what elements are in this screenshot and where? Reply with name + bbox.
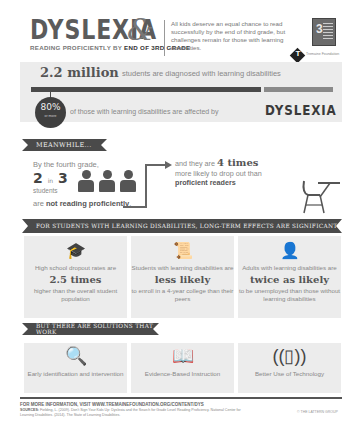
connector-line [145, 164, 147, 208]
effect-text: to enroll in a 4-year college than their… [131, 287, 234, 303]
sources-label: SOURCES: [20, 408, 39, 412]
dropout-mid: more likely to drop out than [175, 169, 262, 178]
arrow-right-icon [165, 161, 172, 169]
solution-label: Evidence-Based Instruction [131, 370, 234, 378]
connector-line [145, 164, 167, 166]
diploma-icon: 📜 [131, 240, 234, 262]
ribbon-solutions: BUT THERE ARE SOLUTIONS THAT WORK [22, 323, 159, 335]
effect-text: Adults with learning disabilities are [238, 264, 341, 272]
students-label: students [33, 187, 58, 194]
not-reading-text: are not reading proficiently. [33, 199, 131, 208]
ratio-stat: 2 in 3 [33, 170, 68, 186]
effect-stat: 2.5 times [24, 274, 127, 285]
magnifier-icon: 🔍 [24, 343, 127, 367]
not-prefix: are [33, 199, 46, 208]
effect-stat: less likely [131, 274, 234, 285]
solution-evidence-based: 📖 Evidence-Based Instruction [131, 343, 234, 393]
copyright: © THE LATTERN GROUP [297, 410, 338, 414]
dropout-prefix: and they are [175, 159, 217, 168]
effect-text: higher than the overall student populati… [24, 287, 127, 303]
book-icon: 📖 [131, 343, 234, 367]
dropout-text: and they are 4 timesmore likely to drop … [175, 158, 285, 188]
percent-value: 80% [37, 102, 64, 112]
dropout-bold: proficient readers [175, 178, 236, 187]
header-divider [164, 20, 165, 56]
worker-globe-icon: 👤 [238, 240, 341, 262]
connector-line [123, 206, 146, 208]
more-info-link[interactable]: FOR MORE INFORMATION, VISIT WWW.TREMAINE… [20, 402, 204, 407]
million-text: students are diagnosed with learning dis… [122, 69, 281, 78]
percent-text: of those with learning disabilities are … [70, 108, 219, 115]
ratio-b: 3 [58, 170, 68, 186]
proportion-bar-other [264, 87, 333, 92]
title-ampersand: & [127, 12, 154, 47]
reader-icon [77, 170, 95, 192]
dropout-big: 4 times [217, 157, 258, 168]
ribbon-effects: FOR STUDENTS WITH LEARNING DISABILITIES,… [22, 219, 342, 233]
logo-text: Tremaine Foundation [306, 52, 339, 56]
effect-text: Students with learning disabilities are [131, 264, 234, 272]
solution-technology: ((▯)) Better Use of Technology [238, 343, 341, 393]
ratio-a: 2 [33, 170, 43, 186]
effect-panel-college: 📜 Students with learning disabilities ar… [131, 236, 234, 318]
sources-text: SOURCES: Fielding, L. (2009). Don't Sign… [20, 408, 250, 418]
solution-early-identification: 🔍 Early identification and intervention [24, 343, 127, 393]
fourth-grade-lead: By the fourth grade, [33, 160, 99, 169]
solution-label: Better Use of Technology [238, 370, 341, 378]
footer-divider [20, 397, 342, 399]
book-lines [323, 23, 333, 41]
effect-stat: twice as likely [238, 274, 341, 285]
effect-text: to be unemployed than those without lear… [238, 287, 341, 303]
graduation-cap-icon: 🎓 [24, 240, 127, 262]
book-badge: 3 [316, 22, 323, 36]
million-value: 2.2 million [40, 65, 119, 80]
percent-sub: or more [37, 114, 64, 118]
dyslexia-highlight: DYSLEXIA [265, 102, 337, 118]
subtitle-prefix: READING PROFICIENTLY BY [30, 44, 124, 51]
intro-text: All kids deserve an equal chance to read… [171, 20, 291, 52]
ribbon-meanwhile: MEANWHILE... [22, 139, 107, 151]
reader-icon [119, 170, 137, 192]
school-desk-icon [300, 175, 345, 215]
ratio-in: in [48, 177, 53, 184]
page-subtitle: READING PROFICIENTLY BY END OF 3RD GRADE [30, 44, 190, 51]
effect-panel-dropout: 🎓 High school dropout rates are 2.5 time… [24, 236, 127, 318]
solution-label: Early identification and intervention [24, 370, 127, 378]
not-bold: not reading proficiently [46, 199, 129, 208]
logo-letter: T [294, 49, 302, 58]
effect-panel-unemployment: 👤 Adults with learning disabilities are … [238, 236, 341, 318]
reader-icon [98, 170, 116, 192]
effect-text: High school dropout rates are [24, 264, 127, 272]
sources-body: Fielding, L. (2009). Don't Sign Your Kid… [20, 408, 241, 417]
tablet-icon: ((▯)) [238, 343, 341, 367]
proportion-bar-dyslexia [31, 87, 261, 92]
